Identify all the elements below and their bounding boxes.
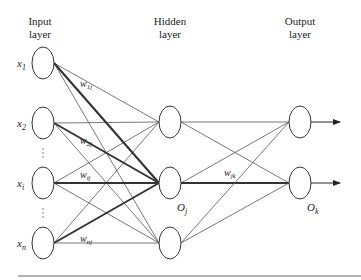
input-layer-title: Input layer: [28, 15, 51, 40]
input-node-x2: [32, 107, 54, 139]
weight-w2j: w2j: [80, 135, 92, 148]
output-arrows: [311, 122, 340, 183]
label-ok: Ok: [307, 201, 319, 216]
svg-text:Hidden: Hidden: [154, 15, 187, 27]
input-node-x1: [32, 47, 54, 79]
svg-text:layer: layer: [29, 28, 51, 40]
label-x2: x2: [16, 117, 26, 132]
label-xi: xi: [16, 177, 24, 192]
hidden-node-1: [159, 106, 181, 138]
hidden-layer-title: Hidden layer: [154, 15, 187, 40]
output-nodes: [289, 106, 311, 199]
output-layer-title: Output layer: [285, 15, 316, 40]
weight-w1j: w1j: [80, 78, 92, 91]
svg-text:Output: Output: [285, 15, 316, 27]
label-x1: x1: [16, 57, 26, 72]
output-node-1: [289, 106, 311, 138]
input-node-xi: [32, 167, 54, 199]
label-xn: xn: [16, 237, 26, 252]
input-hidden-edges: [54, 63, 159, 243]
node-output-labels: Oj Ok: [177, 201, 319, 216]
hidden-node-oj: [159, 167, 181, 199]
neural-network-diagram: Input layer Hidden layer Output layer: [0, 0, 361, 280]
weight-wjk: wjk: [224, 167, 237, 180]
hidden-output-edges: [181, 122, 289, 243]
input-node-xn: [32, 227, 54, 259]
hidden-nodes: [159, 106, 181, 259]
output-node-ok: [289, 167, 311, 199]
weight-labels: w1j w2j wij wnj wjk: [80, 78, 237, 246]
svg-text:layer: layer: [289, 28, 311, 40]
svg-text:Input: Input: [28, 15, 51, 27]
input-labels: x1 x2 xi xn: [16, 57, 26, 252]
weight-wnj: wnj: [80, 233, 92, 246]
hidden-node-3: [159, 227, 181, 259]
label-oj: Oj: [177, 201, 188, 216]
svg-text:layer: layer: [159, 28, 181, 40]
weight-wij: wij: [80, 169, 91, 182]
